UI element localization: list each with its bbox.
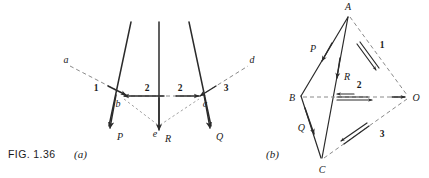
- label-segment-1: 1: [94, 83, 99, 93]
- label-node-c: c: [203, 98, 208, 109]
- figure-canvas: a d e b c P R Q 1 2 2 3: [0, 0, 429, 178]
- panel-b-group: A B C O P Q R 1 2 3: [289, 1, 420, 175]
- label-ray-1-b: 1: [380, 40, 385, 50]
- label-force-Q: Q: [216, 131, 224, 142]
- label-ray-d: d: [250, 54, 256, 65]
- member-line-b: [109, 22, 131, 126]
- label-force-R: R: [164, 133, 171, 144]
- panel-a-caption: (a): [74, 148, 87, 161]
- label-ray-a: a: [64, 54, 69, 65]
- ray-3-marker-upper: [341, 123, 367, 141]
- panel-a-group: a d e b c P R Q 1 2 2 3: [64, 22, 256, 144]
- ray-e-to-c: [160, 99, 199, 125]
- label-force-Q-b: Q: [298, 122, 306, 133]
- label-segment-3: 3: [224, 83, 229, 93]
- label-vertex-C: C: [319, 164, 326, 175]
- member-line-c: [189, 22, 211, 126]
- force-arrow-P-b: [322, 43, 332, 61]
- label-vertex-O: O: [412, 92, 419, 103]
- label-ray-2-b: 2: [357, 80, 362, 90]
- label-segment-2-right: 2: [178, 83, 183, 93]
- label-node-b: b: [116, 98, 121, 109]
- figure-1-36: a d e b c P R Q 1 2 2 3: [0, 0, 429, 178]
- force-arrow-Q-b: [305, 108, 314, 134]
- label-vertex-B: B: [289, 92, 295, 103]
- label-node-e: e: [153, 128, 158, 139]
- force-arrow-R-b: [337, 58, 340, 78]
- label-force-P-b: P: [309, 43, 316, 54]
- figure-caption-number: FIG. 1.36: [8, 148, 55, 160]
- ray-b-to-e: [124, 99, 158, 125]
- label-ray-3-b: 3: [380, 129, 385, 139]
- label-vertex-A: A: [344, 1, 352, 12]
- label-segment-2-left: 2: [145, 83, 150, 93]
- ray-3-marker-lower: [344, 126, 369, 144]
- label-force-R-b: R: [343, 71, 350, 82]
- ray-1-marker-lower: [360, 42, 379, 68]
- panel-b-caption: (b): [266, 148, 279, 161]
- label-force-P: P: [116, 131, 123, 142]
